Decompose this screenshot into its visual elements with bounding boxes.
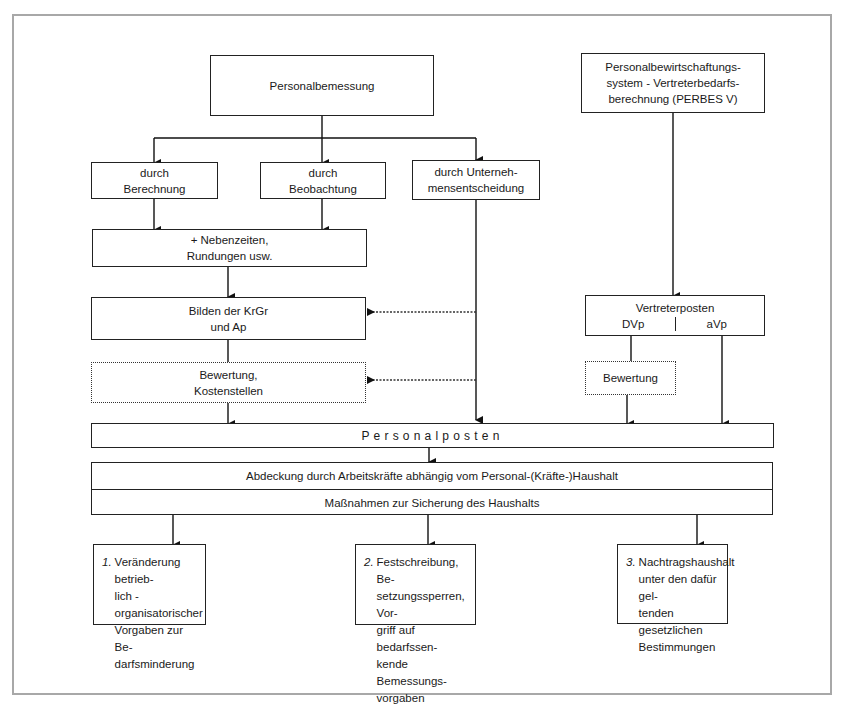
node-vertreterposten: Vertreterposten DVp aVp [585, 295, 765, 336]
avp-label: aVp [676, 316, 765, 332]
node-label: Bilden der KrGr und Ap [189, 303, 268, 335]
node-nebenzeiten: + Nebenzeiten, Rundungen usw. [92, 229, 367, 267]
node-perbes: Personalbewirtschaftungs- system - Vertr… [581, 53, 765, 113]
option-number: 3. [626, 554, 636, 656]
node-durch-unternehmensentscheidung: durch Unterneh- mensentscheidung [412, 160, 540, 200]
node-label: durch Unterneh- mensentscheidung [428, 164, 525, 196]
node-label: Personalposten [361, 428, 503, 444]
option-number: 2. [364, 554, 374, 707]
node-abdeckung-massnahmen: Abdeckung durch Arbeitskräfte abhängig v… [91, 462, 773, 515]
node-label: Personalbewirtschaftungs- system - Vertr… [605, 59, 741, 107]
node-option-1: 1. Veränderung betrieb- lich - organisat… [93, 544, 206, 625]
option-text: Nachtragshaushalt unter den dafür gel- t… [639, 554, 735, 656]
node-label: + Nebenzeiten, Rundungen usw. [187, 232, 273, 264]
node-personalbemessung: Personalbemessung [210, 55, 434, 116]
option-text: Festschreibung, Be- setzungssperren, Vor… [377, 554, 469, 707]
node-bilden-krgr-ap: Bilden der KrGr und Ap [91, 297, 366, 340]
node-label: Bewertung [603, 370, 658, 386]
node-personalposten: Personalposten [91, 423, 774, 448]
node-bewertung-kostenstellen: Bewertung, Kostenstellen [91, 362, 366, 403]
node-durch-berechnung: durch Berechnung [91, 162, 218, 199]
dvp-label: DVp [586, 316, 675, 332]
node-durch-beobachtung: durch Beobachtung [260, 162, 386, 199]
option-number: 1. [102, 554, 112, 673]
massnahmen-row: Maßnahmen zur Sicherung des Haushalts [92, 490, 772, 515]
node-label: Vertreterposten [586, 300, 764, 316]
option-text: Veränderung betrieb- lich - organisatori… [115, 554, 203, 673]
node-label: Abdeckung durch Arbeitskräfte abhängig v… [246, 468, 618, 484]
node-label: durch Beobachtung [289, 165, 357, 197]
node-label: durch Berechnung [123, 165, 185, 197]
node-option-2: 2. Festschreibung, Be- setzungssperren, … [355, 544, 476, 625]
node-label: Personalbemessung [270, 78, 375, 94]
abdeckung-row: Abdeckung durch Arbeitskräfte abhängig v… [92, 463, 772, 490]
node-bewertung-vertreter: Bewertung [585, 361, 676, 395]
node-label: Bewertung, Kostenstellen [194, 367, 263, 399]
node-label: Maßnahmen zur Sicherung des Haushalts [325, 495, 540, 511]
node-option-3: 3. Nachtragshaushalt unter den dafür gel… [617, 544, 728, 624]
